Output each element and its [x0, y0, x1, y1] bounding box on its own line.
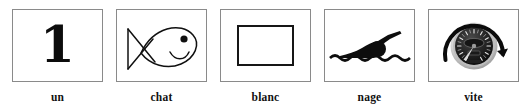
- picture-panel-un: 1: [12, 9, 103, 82]
- caption-vite: vite: [464, 91, 483, 104]
- rebus-card-vite[interactable]: vite: [428, 0, 519, 104]
- picture-panel-nage: [324, 9, 415, 82]
- swimmer-body: [340, 31, 402, 58]
- rebus-card-strip: 1 un chat: [0, 0, 524, 112]
- gauge-lower-window: [467, 60, 481, 63]
- picture-panel-vite: [428, 9, 519, 82]
- fish-smile-icon: [170, 52, 189, 59]
- picture-panel-blanc: [220, 9, 311, 82]
- rebus-card-un[interactable]: 1 un: [12, 0, 103, 104]
- empty-white-rectangle-icon: [237, 25, 294, 66]
- fish-outline-icon: [123, 17, 201, 75]
- rebus-card-nage[interactable]: nage: [324, 0, 415, 104]
- rebus-card-blanc[interactable]: blanc: [220, 0, 311, 104]
- caption-chat: chat: [151, 91, 173, 104]
- picture-panel-chat: [116, 9, 207, 82]
- fish-eye-icon: [180, 35, 187, 42]
- clockwise-arrow-head: [497, 48, 508, 57]
- rebus-card-chat[interactable]: chat: [116, 0, 207, 104]
- caption-blanc: blanc: [252, 91, 280, 104]
- caption-un: un: [51, 91, 64, 104]
- swimmer-icon: [328, 16, 412, 76]
- swimmer-head: [370, 41, 386, 57]
- speedometer-icon: [437, 13, 511, 79]
- caption-nage: nage: [358, 91, 382, 104]
- gauge-needle-hub: [471, 43, 475, 47]
- numeral-one-glyph: 1: [40, 20, 75, 70]
